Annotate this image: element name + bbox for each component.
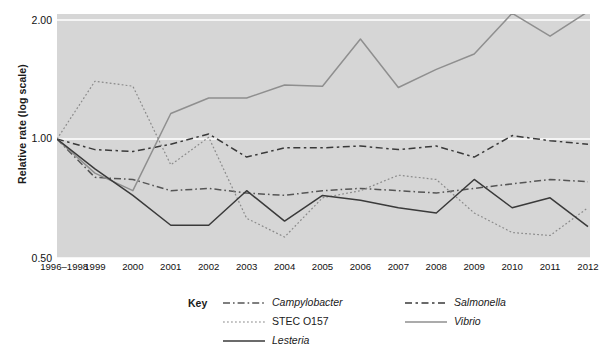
legend-swatch-stec-o157 [222,315,266,329]
x-tick-2008: 2008 [426,261,447,272]
legend-swatch-vibrio [404,315,448,329]
legend-label-campylobacter: Campylobacter [272,296,343,308]
x-tick-2001: 2001 [160,261,181,272]
legend-swatch-campylobacter [222,296,266,310]
legend-label-vibrio: Vibrio [454,315,481,327]
chart-screenshot: 2.00 1.00 0.50 Relative rate (log scale)… [0,0,615,350]
x-tick-1999: 1999 [84,261,105,272]
legend-label-salmonella: Salmonella [454,296,506,308]
legend-swatch-lesteria [222,334,266,348]
series-line-stec-o157 [57,81,588,237]
x-tick-2007: 2007 [388,261,409,272]
x-tick-2010: 2010 [501,261,522,272]
legend-swatch-salmonella [404,296,448,310]
legend-label-lesteria: Lesteria [272,334,309,346]
x-tick-2000: 2000 [122,261,143,272]
series-canvas [57,14,590,258]
series-line-salmonella [57,134,588,157]
plot-region [57,14,590,258]
x-tick-2005: 2005 [312,261,333,272]
x-tick-1996-1998: 1996–1998 [40,261,88,272]
series-line-vibrio [57,14,588,191]
y-axis-label: Relative rate (log scale) [16,14,28,234]
x-tick-2006: 2006 [350,261,371,272]
x-axis: 1996–19981999200020012002200320042005200… [0,261,615,279]
legend: Key Campylobacter Salmonella STEC O157 V… [0,292,615,350]
x-tick-2003: 2003 [236,261,257,272]
y-axis: 2.00 1.00 0.50 Relative rate (log scale) [0,0,52,285]
x-tick-2004: 2004 [274,261,295,272]
x-tick-2009: 2009 [464,261,485,272]
legend-label-stec-o157: STEC O157 [272,315,329,327]
y-tick-1.00: 1.00 [6,132,52,144]
x-tick-2002: 2002 [198,261,219,272]
chart-area: 2.00 1.00 0.50 Relative rate (log scale)… [0,0,615,285]
x-tick-2012: 2012 [577,261,598,272]
x-tick-2011: 2011 [540,261,561,272]
legend-title: Key [188,297,207,309]
y-tick-2.00: 2.00 [6,14,52,26]
